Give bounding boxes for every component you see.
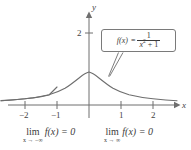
x-tick-label-minus2: −2: [19, 110, 29, 120]
y-axis-label: y: [92, 2, 96, 12]
denominator-tail: + 1: [148, 40, 159, 49]
callout-pointer: [109, 53, 124, 77]
limit-operator-group-left: lim x → −∞: [23, 127, 43, 143]
x-tick-label-minus1: −1: [51, 110, 61, 120]
formula-denominator: x2 + 1: [137, 41, 160, 49]
limit-operator-left: lim: [26, 127, 39, 137]
limit-statement-right: lim x → ∞ f(x) = 0: [104, 127, 153, 143]
denominator-exponent: 2: [143, 38, 146, 44]
y-tick-label-2: 2: [77, 28, 82, 38]
limit-statement-left: lim x → −∞ f(x) = 0: [23, 127, 75, 143]
function-formula: f(x) = 1 x2 + 1: [117, 32, 160, 49]
limit-subscript-left: x → −∞: [23, 137, 43, 143]
formula-fraction: 1 x2 + 1: [137, 32, 160, 49]
x-axis-arrowhead: [174, 102, 181, 108]
x-tick-label-2: 2: [151, 110, 156, 120]
y-axis: [86, 12, 92, 119]
limit-body-left: f(x) = 0: [45, 127, 76, 137]
x-axis-label: x: [182, 100, 186, 110]
limit-operator-group-right: lim x → ∞: [104, 127, 120, 143]
x-tick-label-1: 1: [119, 110, 124, 120]
limit-body-right: f(x) = 0: [122, 127, 153, 137]
formula-lhs: f(x): [117, 37, 128, 45]
limit-graph-figure: x y −2 −1 1 2 2 f(x) = 1 x2 + 1 lim x → …: [0, 0, 191, 150]
y-axis-arrowhead: [86, 12, 92, 19]
limit-subscript-right: x → ∞: [104, 137, 120, 143]
x-axis: [8, 102, 181, 108]
limit-operator-right: lim: [105, 127, 118, 137]
formula-equals: =: [131, 37, 136, 45]
function-callout-box: f(x) = 1 x2 + 1: [101, 29, 176, 52]
